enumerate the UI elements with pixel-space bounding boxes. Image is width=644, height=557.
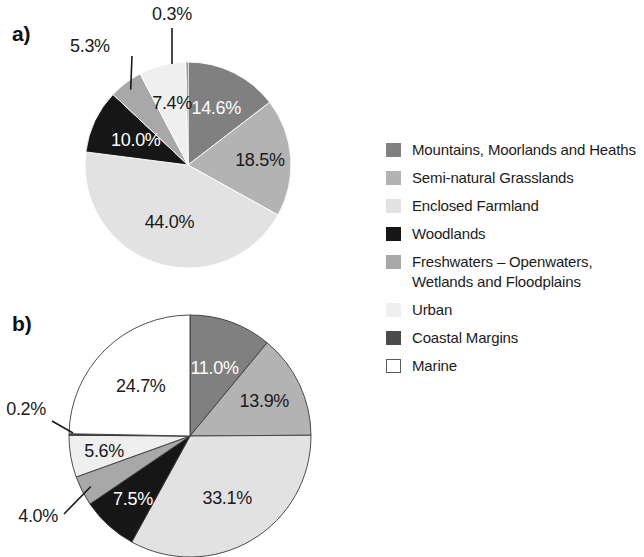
slice-value-label: 0.2% <box>6 399 46 419</box>
legend-item-label: Freshwaters – Openwaters, Wetlands and F… <box>412 252 638 292</box>
slice-value-label: 4.0% <box>18 506 58 526</box>
slice-value-label: 13.9% <box>240 391 290 411</box>
slice-value-label: 0.3% <box>152 4 192 24</box>
legend-item[interactable]: Mountains, Moorlands and Heaths <box>386 140 638 160</box>
slice-value-label: 14.6% <box>191 98 241 118</box>
panel-b-label: b) <box>12 312 31 336</box>
legend-swatch <box>386 331 401 345</box>
legend-item[interactable]: Woodlands <box>386 224 638 244</box>
slice-value-label: 24.7% <box>116 376 166 396</box>
legend-item-label: Coastal Margins <box>412 328 518 348</box>
legend-swatch <box>386 359 401 373</box>
legend-item-label: Marine <box>412 356 457 376</box>
legend-swatch <box>386 303 401 317</box>
legend-swatch <box>386 199 401 213</box>
legend: Mountains, Moorlands and HeathsSemi-natu… <box>386 140 638 384</box>
slice-value-label: 5.6% <box>84 441 124 461</box>
leader-line <box>64 487 91 515</box>
slice-value-label: 44.0% <box>145 212 195 232</box>
slice-value-label: 11.0% <box>190 358 238 378</box>
slice-value-label: 18.5% <box>235 150 285 170</box>
slice-value-label: 7.5% <box>113 489 153 509</box>
legend-item[interactable]: Semi-natural Grasslands <box>386 168 638 188</box>
legend-item[interactable]: Marine <box>386 356 638 376</box>
legend-item-label: Urban <box>412 300 452 320</box>
legend-swatch <box>386 227 401 241</box>
legend-swatch <box>386 171 401 185</box>
legend-item[interactable]: Freshwaters – Openwaters, Wetlands and F… <box>386 252 638 292</box>
slice-value-label: 7.4% <box>152 93 192 113</box>
slice-value-label: 33.1% <box>202 488 252 508</box>
legend-item-label: Semi-natural Grasslands <box>412 168 574 188</box>
legend-item[interactable]: Urban <box>386 300 638 320</box>
slice-value-label: 10.0% <box>111 130 161 150</box>
pie-chart-b: 11.0%13.9%33.1%7.5%4.0%5.6%0.2%24.7% <box>6 315 311 557</box>
panel-a-label: a) <box>12 22 30 46</box>
figure-two-pie-charts: a) b) 14.6%18.5%44.0%10.0%5.3%7.4%0.3% 1… <box>0 0 644 557</box>
legend-item-label: Woodlands <box>412 224 485 244</box>
slice-value-label: 5.3% <box>70 36 110 56</box>
legend-item-label: Enclosed Farmland <box>412 196 539 216</box>
legend-swatch <box>386 143 401 157</box>
pie-chart-a: 14.6%18.5%44.0%10.0%5.3%7.4%0.3% <box>70 4 291 268</box>
legend-item-label: Mountains, Moorlands and Heaths <box>412 140 636 160</box>
legend-item[interactable]: Enclosed Farmland <box>386 196 638 216</box>
legend-swatch <box>386 255 401 269</box>
legend-item[interactable]: Coastal Margins <box>386 328 638 348</box>
